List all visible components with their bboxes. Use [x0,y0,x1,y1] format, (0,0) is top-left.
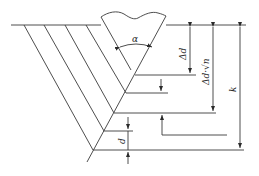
angle-label: α [132,34,138,44]
weld-cap-outline [101,12,166,19]
delta-d-label: Δd [178,48,188,61]
angle-arc [120,44,152,47]
hatch-line [24,25,93,150]
weld-groove-diagram: α Δd Δd·√n k d [0,0,259,176]
delta-d-sqrt-n-label: Δd·√n [201,58,211,86]
groove-left-edge [101,17,131,70]
hatch-line [65,25,114,113]
k-label: k [228,87,238,92]
hatch-line [86,25,126,93]
d-label: d [117,138,127,144]
